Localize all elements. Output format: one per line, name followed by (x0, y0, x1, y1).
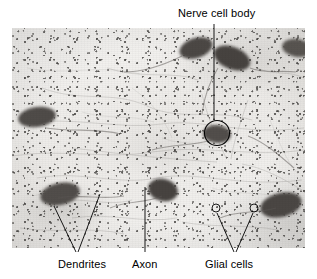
label-nerve-cell-body: Nerve cell body (178, 7, 255, 20)
label-axon: Axon (132, 258, 157, 271)
label-dendrites: Dendrites (58, 258, 106, 271)
label-glial-cells: Glial cells (205, 258, 253, 271)
micrograph-figure: Nerve cell body Dendrites Axon Glial cel… (0, 0, 317, 279)
plate-grain (12, 28, 305, 248)
micrograph-image (12, 28, 305, 248)
